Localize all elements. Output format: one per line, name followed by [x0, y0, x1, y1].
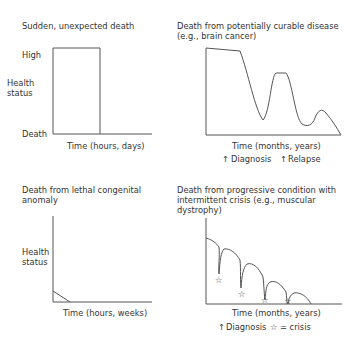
- crisis-star-icon: ☆: [261, 295, 268, 305]
- panel-title-line2: anomaly: [22, 195, 58, 205]
- panel-title-line3: dystrophy): [177, 205, 222, 215]
- y-label-high: High: [22, 50, 41, 60]
- crisis-legend-star-icon: ☆: [270, 322, 277, 332]
- y-label-status: status: [22, 257, 48, 267]
- health-curve: [53, 291, 70, 302]
- panel-title-line1: Death from progressive condition with: [177, 185, 336, 195]
- diagnosis-label: Diagnosis: [231, 154, 271, 164]
- y-label-health: Health: [22, 247, 49, 257]
- y-label-death: Death: [22, 129, 47, 139]
- crisis-star-icon: ☆: [284, 296, 291, 306]
- x-axis-label: Time (hours, weeks): [62, 308, 147, 318]
- diagnosis-label: Diagnosis: [226, 322, 266, 332]
- x-axis-label: Time (months, years): [231, 141, 321, 151]
- relapse-arrow: ↑: [280, 154, 287, 164]
- relapse-label: Relapse: [288, 154, 321, 164]
- diagnosis-arrow: ↑: [218, 322, 225, 332]
- x-axis-label: Time (hours, days): [66, 141, 145, 151]
- health-trajectory-diagram: Sudden, unexpected death High Health sta…: [0, 0, 358, 348]
- crisis-legend-label: = crisis: [280, 322, 311, 332]
- panel-curable-disease: Death from potentially curable disease (…: [177, 21, 341, 164]
- y-label-health: Health: [7, 78, 34, 88]
- health-curve: [206, 238, 311, 304]
- panel-progressive-condition: Death from progressive condition with in…: [177, 185, 342, 332]
- x-axis-label: Time (months, years): [231, 308, 321, 318]
- health-curve: [206, 48, 341, 135]
- panel-title-line2: intermittent crisis (e.g., muscular: [177, 195, 316, 205]
- crisis-star-icon: ☆: [238, 289, 245, 299]
- panel-title-line1: Death from potentially curable disease: [177, 21, 339, 31]
- panel-sudden-death: Sudden, unexpected death High Health sta…: [7, 21, 152, 151]
- diagnosis-arrow: ↑: [222, 154, 229, 164]
- crisis-star-icon: ☆: [215, 275, 222, 285]
- health-curve: [53, 48, 100, 134]
- panel-title-line1: Death from lethal congenital: [22, 185, 141, 195]
- panel-congenital-anomaly: Death from lethal congenital anomaly Hea…: [22, 185, 152, 318]
- panel-title: Sudden, unexpected death: [22, 21, 134, 31]
- panel-title-line2: (e.g., brain cancer): [177, 31, 256, 41]
- y-label-status: status: [7, 88, 33, 98]
